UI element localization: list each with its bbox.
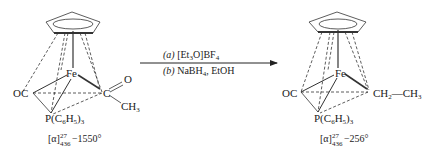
- reactant-methyl-sub: 3: [136, 106, 140, 114]
- reactant-optical-rotation: [α]27436−1550°: [48, 133, 102, 145]
- reactant-methyl-label: CH3: [121, 100, 140, 112]
- phosphine-mid: H: [335, 112, 343, 124]
- ethyl-sub2: 3: [418, 93, 422, 101]
- phosphine-sub: 3: [350, 118, 354, 126]
- condition-step-a: (a) [Et3O]BF4: [163, 49, 219, 60]
- rotation-temp: 27: [60, 133, 67, 140]
- rotation-value: −1550°: [72, 133, 102, 144]
- step-b-label: (b): [163, 65, 175, 76]
- phosphine-sub: 3: [81, 118, 85, 126]
- rotation-value: −256°: [344, 133, 369, 144]
- phosphine-prefix: P(C: [314, 112, 331, 124]
- product-structure: [301, 12, 369, 113]
- step-a-rest: O]BF: [193, 49, 216, 60]
- step-a-label: (a): [163, 49, 175, 60]
- step-b-reagent: NaBH: [177, 65, 203, 76]
- rotation-wavelength: 436: [60, 141, 71, 148]
- rotation-wavelength: 436: [332, 141, 343, 148]
- step-a-sub2: 4: [216, 54, 220, 62]
- reactant-metal-label: Fe: [66, 67, 77, 79]
- product-phosphine-label: P(C6H5)3: [314, 112, 353, 124]
- product-carbonyl-label: OC: [282, 87, 297, 99]
- reactant-phosphine-label: P(C6H5)3: [45, 112, 84, 124]
- product-optical-rotation: [α]27436−256°: [320, 133, 369, 145]
- ethyl-prefix: CH: [373, 87, 388, 99]
- product-metal-label: Fe: [335, 67, 346, 79]
- step-b-rest: , EtOH: [206, 65, 234, 76]
- rotation-prefix: [α]: [48, 133, 60, 144]
- rotation-prefix: [α]: [320, 133, 332, 144]
- ethyl-bond: —CH: [392, 87, 418, 99]
- phosphine-mid: H: [66, 112, 74, 124]
- product-ethyl-label: CH2—CH3: [373, 87, 422, 99]
- step-a-reagent: [Et: [177, 49, 189, 60]
- reactant-acyl-oxygen-label: O: [124, 73, 132, 85]
- rotation-temp: 27: [332, 133, 339, 140]
- reactant-carbonyl-label: OC: [13, 87, 28, 99]
- phosphine-prefix: P(C: [45, 112, 62, 124]
- condition-step-b: (b) NaBH4, EtOH: [163, 65, 235, 76]
- reactant-methyl-text: CH: [121, 100, 136, 112]
- reactant-acyl-carbon-label: C: [103, 87, 110, 99]
